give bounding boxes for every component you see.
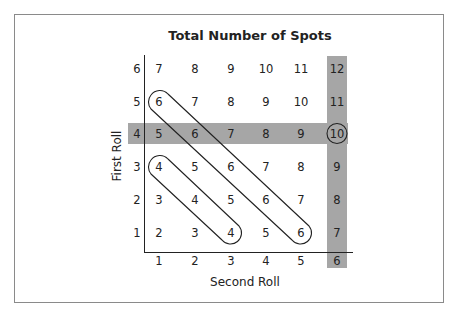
diagonal-loop-sum-4 [148, 155, 241, 244]
diagonal-loops-overlay [0, 0, 460, 318]
circle-highlight [327, 124, 347, 144]
diagonal-loop-sum-6 [148, 90, 311, 244]
